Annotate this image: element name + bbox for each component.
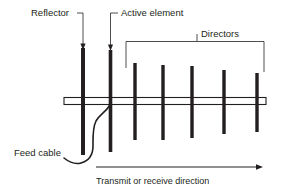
directors-bracket-path bbox=[126, 42, 264, 73]
label-feed-cable: Feed cable bbox=[14, 147, 61, 158]
active-element-leader bbox=[108, 13, 118, 51]
crossing-active bbox=[109, 98, 113, 104]
reflector-leader-path bbox=[77, 13, 83, 45]
label-reflector: Reflector bbox=[31, 7, 69, 18]
direction-arrow bbox=[96, 164, 263, 169]
label-active-element: Active element bbox=[121, 7, 184, 18]
active-element-leader-path bbox=[111, 13, 119, 46]
label-direction: Transmit or receive direction bbox=[96, 176, 209, 186]
yagi-antenna-diagram: Reflector Active element Directors Feed … bbox=[0, 0, 281, 190]
reflector-leader bbox=[77, 13, 86, 50]
direction-arrowhead-icon bbox=[256, 164, 263, 169]
feed-cable-line bbox=[64, 105, 110, 164]
diagram-canvas: Reflector Active element Directors Feed … bbox=[0, 0, 281, 190]
crossing-director-5 bbox=[255, 98, 258, 104]
crossing-director-1 bbox=[133, 98, 136, 104]
crossing-director-2 bbox=[161, 98, 164, 104]
crossing-director-3 bbox=[190, 98, 193, 104]
label-directors: Directors bbox=[201, 28, 239, 39]
crossing-reflector bbox=[81, 98, 85, 104]
directors-bracket bbox=[126, 34, 264, 72]
antenna-boom bbox=[64, 98, 266, 105]
crossing-director-4 bbox=[222, 98, 225, 104]
